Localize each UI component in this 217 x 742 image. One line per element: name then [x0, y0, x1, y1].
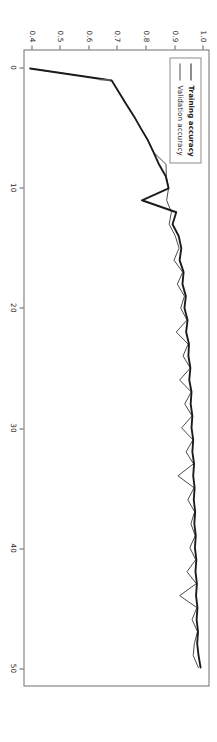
figure-rotation-wrapper: 010203040500.40.50.60.70.80.91.0 Trainin… [0, 0, 217, 742]
x-tick-label: 40 [8, 543, 17, 553]
y-tick-label: 0.4 [27, 15, 36, 42]
y-tick-label: 1.0 [199, 15, 208, 42]
scanned-figure-page: 010203040500.40.50.60.70.80.91.0 Trainin… [0, 0, 217, 742]
x-tick-mark [19, 428, 23, 429]
legend-label-validation: Validation accuracy [175, 85, 184, 155]
x-tick-label: 0 [8, 65, 17, 70]
y-tick-mark [116, 45, 117, 49]
y-tick-mark [174, 45, 175, 49]
y-tick-mark [88, 45, 89, 49]
x-tick-mark [19, 307, 23, 308]
x-tick-label: 30 [8, 423, 17, 433]
legend-box: Training accuracy Validation accuracy [169, 57, 201, 163]
scan-artifact-mark [99, 79, 110, 80]
y-tick-mark [202, 45, 203, 49]
x-tick-label: 20 [8, 303, 17, 313]
x-tick-mark [19, 668, 23, 669]
x-tick-mark [19, 548, 23, 549]
legend-line-icon-training [190, 63, 191, 80]
x-tick-mark [19, 67, 23, 68]
y-tick-mark [59, 45, 60, 49]
y-tick-label: 0.9 [170, 15, 179, 42]
y-tick-label: 0.6 [84, 15, 93, 42]
y-tick-label: 0.7 [113, 15, 122, 42]
y-tick-mark [145, 45, 146, 49]
legend-item-training: Training accuracy [185, 63, 196, 156]
legend-item-validation: Validation accuracy [174, 63, 185, 156]
matplotlib-figure: 010203040500.40.50.60.70.80.91.0 Trainin… [0, 0, 217, 742]
y-tick-mark [31, 45, 32, 49]
y-tick-label: 0.5 [56, 15, 65, 42]
y-tick-label: 0.8 [142, 15, 151, 42]
x-tick-label: 10 [8, 182, 17, 192]
legend-line-icon-validation [179, 63, 180, 80]
legend-label-training: Training accuracy [186, 85, 195, 156]
x-tick-label: 50 [8, 663, 17, 673]
x-tick-mark [19, 187, 23, 188]
